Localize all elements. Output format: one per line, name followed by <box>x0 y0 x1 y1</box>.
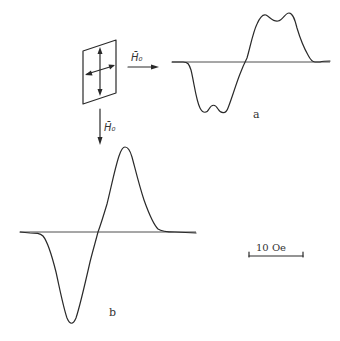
field-label-horizontal: H̄₀ <box>131 51 143 63</box>
curve-b-trace <box>20 147 196 323</box>
sample-film-icon <box>83 40 116 104</box>
diagram-canvas: H̄₀ H̄₀ a b 10 Oe <box>0 0 340 341</box>
curve-a-label: a <box>253 108 260 121</box>
field-label-vertical: H̄₀ <box>104 121 116 133</box>
field-arrow-horizontal <box>128 65 159 70</box>
field-arrow-vertical <box>98 109 103 145</box>
curve-a-trace <box>172 13 330 113</box>
curve-a <box>172 13 330 113</box>
curve-b <box>20 147 196 323</box>
curve-b-label: b <box>109 306 116 319</box>
scale-bar-label: 10 Oe <box>256 242 286 253</box>
